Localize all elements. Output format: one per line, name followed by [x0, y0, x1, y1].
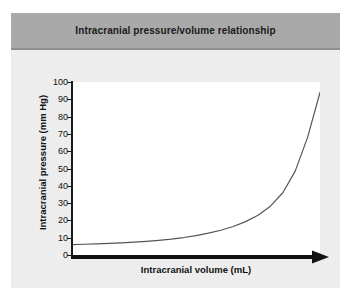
figure-container: Intracranial pressure/volume relationshi… [0, 0, 354, 303]
x-axis-title: Intracranial volume (mL) [72, 264, 320, 275]
y-axis-tick-mark [67, 134, 72, 135]
y-axis-tick-mark [67, 220, 72, 221]
y-axis-title: Intracranial pressure (mm Hg) [37, 83, 48, 243]
pressure-volume-curve [72, 82, 320, 255]
x-axis-arrow [69, 250, 329, 264]
y-axis-tick-mark [67, 151, 72, 152]
y-axis-tick-mark [67, 238, 72, 239]
y-axis-tick-label: 100 [53, 78, 68, 87]
y-axis-tick-mark [67, 169, 72, 170]
y-axis-tick-mark [67, 203, 72, 204]
chart-region: 0102030405060708090100 Intracranial pres… [11, 50, 340, 288]
page-title: Intracranial pressure/volume relationshi… [75, 25, 275, 36]
y-axis-tick-mark [67, 117, 72, 118]
y-axis-tick-mark [67, 186, 72, 187]
figure-title-bar: Intracranial pressure/volume relationshi… [11, 13, 340, 50]
y-axis-tick-mark [67, 82, 72, 83]
y-axis-tick-mark [67, 99, 72, 100]
plot-area [72, 82, 320, 255]
